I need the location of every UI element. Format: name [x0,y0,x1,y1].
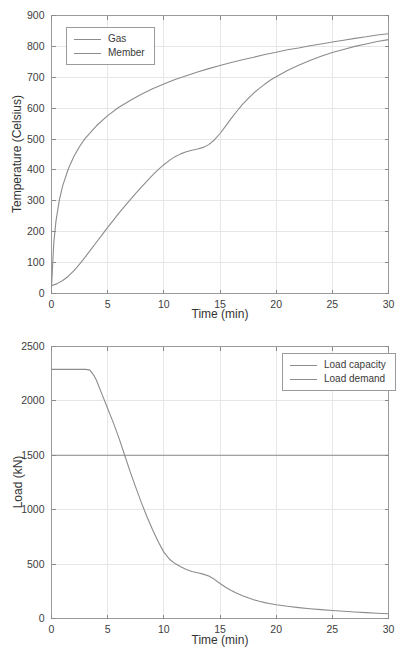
y-axis-label-load: Load (kN) [11,456,25,509]
y-tick-label: 0 [39,612,45,624]
y-tick-label: 700 [27,71,45,83]
y-tick-label: 300 [27,194,45,206]
y-tick-label: 100 [27,256,45,268]
gas-line-swatch [74,39,101,40]
temperature-legend: Gas Member [66,27,155,65]
y-tick-label: 200 [27,225,45,237]
y-axis-label-temperature: Temperature (Celsius) [10,95,24,213]
x-axis-label-temperature: Time (min) [51,307,389,321]
legend-entry-member: Member [74,46,145,60]
legend-entry-load-demand: Load demand [290,372,386,386]
member-line-swatch [74,53,101,54]
legend-label-gas: Gas [108,32,126,46]
load-capacity-line-swatch [290,365,317,366]
legend-label-member: Member [108,46,145,60]
legend-label-load-capacity: Load capacity [324,358,386,372]
y-tick-label: 0 [39,287,45,299]
load-chart: 05101520253005001000150020002500 Load ca… [0,333,409,667]
y-tick-label: 500 [27,558,45,570]
x-axis-label-load: Time (min) [51,633,389,647]
y-tick-label: 500 [27,133,45,145]
legend-entry-load-capacity: Load capacity [290,358,386,372]
legend-label-load-demand: Load demand [324,372,385,386]
y-tick-label: 800 [27,40,45,52]
y-tick-label: 2500 [21,340,45,352]
load-legend: Load capacity Load demand [282,353,396,391]
y-tick-label: 600 [27,102,45,114]
load-demand-line-swatch [290,379,317,380]
y-tick-label: 400 [27,163,45,175]
y-tick-label: 2000 [21,394,45,406]
temperature-plot-canvas: 0510152025300100200300400500600700800900 [0,0,409,333]
legend-entry-gas: Gas [74,32,145,46]
figure-page: 0510152025300100200300400500600700800900… [0,0,409,667]
temperature-chart: 0510152025300100200300400500600700800900… [0,0,409,333]
y-tick-label: 900 [27,9,45,21]
